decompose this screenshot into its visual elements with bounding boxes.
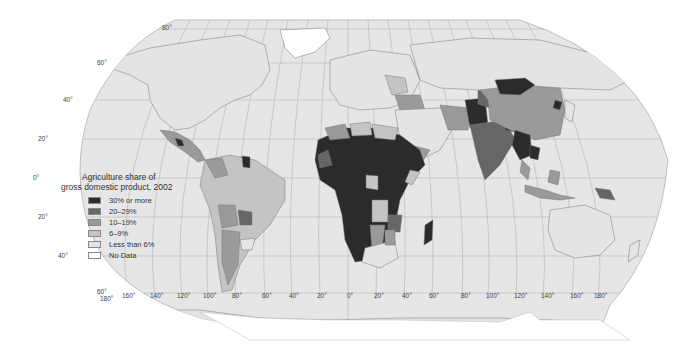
legend-item: Less than 6% [88, 240, 154, 249]
lon-label: 140° [150, 292, 164, 299]
legend-item: 30% or more [88, 196, 152, 205]
lon-label: 60° [262, 292, 272, 299]
legend-swatch [88, 197, 101, 204]
lat-label: 40° [58, 252, 68, 259]
legend-item: 10–19% [88, 218, 137, 227]
lon-label: 20° [374, 292, 384, 299]
lat-label: 20° [38, 135, 48, 142]
lon-label: 20° [317, 292, 327, 299]
lon-label: 80° [232, 292, 242, 299]
legend-item: 6–9% [88, 229, 128, 238]
legend-swatch [88, 219, 101, 226]
legend-label: No Data [109, 251, 137, 260]
lat-label: 60° [97, 59, 107, 66]
lat-label: 0° [33, 174, 40, 181]
lon-label: 140° [541, 292, 555, 299]
legend-label: Less than 6% [109, 240, 154, 249]
lon-label: 80° [461, 292, 471, 299]
legend-label: 6–9% [109, 229, 128, 238]
legend-label: 10–19% [109, 218, 137, 227]
legend-swatch [88, 230, 101, 237]
legend-title-line2: gross domestic product, 2002 [61, 182, 173, 192]
lon-label: 100° [203, 292, 217, 299]
legend-item: No Data [88, 251, 137, 260]
legend-swatch [88, 241, 101, 248]
lon-label: 160° [122, 292, 136, 299]
lon-label: 40° [402, 292, 412, 299]
lon-label: 0° [347, 292, 354, 299]
lon-label: 180° [100, 295, 114, 302]
legend-title-line1: Agriculture share of [82, 172, 156, 182]
legend-label: 30% or more [109, 196, 152, 205]
legend-swatch [88, 252, 101, 259]
lat-label: 80° [162, 24, 172, 31]
lat-label: 20° [38, 213, 48, 220]
lon-label: 100° [486, 292, 500, 299]
lon-label: 120° [177, 292, 191, 299]
australia [548, 205, 615, 258]
lon-label: 60° [429, 292, 439, 299]
lat-label: 40° [63, 96, 73, 103]
lon-label: 40° [289, 292, 299, 299]
lat-label: 60° [97, 288, 107, 295]
legend-label: 20–29% [109, 207, 137, 216]
lon-label: 160° [570, 292, 584, 299]
lon-label: 180° [594, 292, 608, 299]
lon-label: 120° [514, 292, 528, 299]
legend-swatch [88, 208, 101, 215]
legend-item: 20–29% [88, 207, 137, 216]
